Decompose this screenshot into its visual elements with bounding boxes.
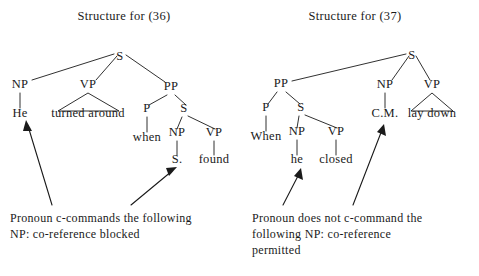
node-p-37: P bbox=[262, 100, 269, 114]
tree-panel-36: S NP VP PP P S NP VP He turned around wh… bbox=[10, 49, 230, 241]
figure-canvas: Structure for (36) Structure for (37) bbox=[0, 0, 479, 276]
node-np-subj-37: NP bbox=[377, 77, 394, 91]
leaf-found-36: found bbox=[199, 152, 230, 166]
caption-line-2-36: NP: co-reference blocked bbox=[10, 227, 140, 241]
branch-s-np bbox=[32, 54, 114, 80]
node-vp-emb-36: VP bbox=[206, 125, 223, 139]
node-s-emb-36: S bbox=[180, 101, 187, 115]
node-vp-main-37: VP bbox=[424, 77, 441, 91]
caption-line-3-37: permitted bbox=[252, 243, 301, 257]
caption-line-1-37: Pronoun does not c-command the bbox=[252, 211, 422, 225]
leaf-when-37: When bbox=[250, 129, 281, 143]
caption-line-2-37: following NP: co-reference bbox=[252, 227, 391, 241]
node-vp-main-36: VP bbox=[80, 77, 97, 91]
annotation-arrow-to-he-36 bbox=[23, 120, 52, 205]
syntax-tree-figure: Structure for (36) Structure for (37) bbox=[0, 0, 479, 276]
node-s-root-36: S bbox=[116, 49, 123, 63]
tree-panel-37: S PP NP VP P S NP VP When he closed C.M.… bbox=[250, 48, 456, 257]
branch-s-pp bbox=[126, 55, 165, 82]
leaf-cm-37: C.M. bbox=[372, 106, 399, 120]
leaf-he-36: He bbox=[12, 106, 27, 120]
node-np-subj-36: NP bbox=[12, 77, 29, 91]
branch-pp-p bbox=[149, 95, 167, 105]
leaf-sdot-36: S. bbox=[172, 152, 183, 166]
node-np-emb-36: NP bbox=[169, 125, 186, 139]
node-p-36: P bbox=[143, 101, 150, 115]
node-s-emb-37: S bbox=[297, 100, 304, 114]
node-np-emb-37: NP bbox=[289, 124, 306, 138]
leaf-he-37: he bbox=[291, 152, 304, 166]
panel-title-36: Structure for (36) bbox=[78, 9, 171, 23]
leaf-closed-37: closed bbox=[319, 152, 353, 166]
branch-s-vp bbox=[96, 56, 117, 80]
leaf-turned-around-36: turned around bbox=[51, 106, 125, 120]
node-vp-emb-37: VP bbox=[328, 124, 345, 138]
annotation-arrow-to-he-37 bbox=[283, 168, 303, 205]
leaf-lay-down-37: lay down bbox=[408, 106, 457, 120]
annotation-arrow-to-sdot-36 bbox=[131, 167, 177, 205]
annotation-arrow-to-cm-37 bbox=[353, 124, 386, 205]
leaf-when-36: when bbox=[133, 130, 162, 144]
panel-title-37: Structure for (37) bbox=[309, 9, 402, 23]
branch-s-np-37 bbox=[392, 56, 409, 80]
node-s-root-37: S bbox=[408, 48, 415, 62]
caption-line-1-36: Pronoun c-commands the following bbox=[10, 211, 192, 225]
node-pp-36: PP bbox=[164, 79, 179, 93]
node-pp-37: PP bbox=[274, 76, 289, 90]
